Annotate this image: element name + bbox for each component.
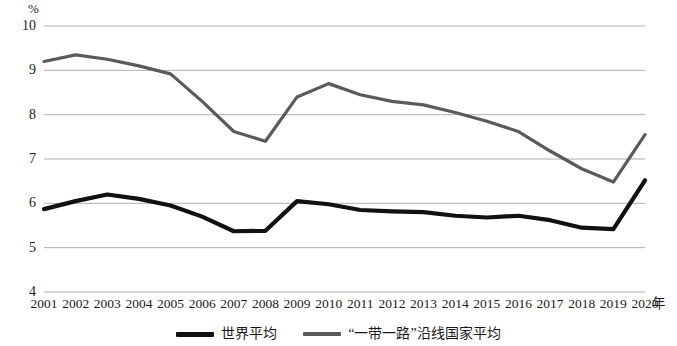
y-tick-label: 9 <box>10 63 36 77</box>
legend-item[interactable]: 世界平均 <box>176 326 277 342</box>
series-group <box>44 55 645 231</box>
y-tick-label: 8 <box>10 108 36 122</box>
y-tick-label: 6 <box>10 196 36 210</box>
plot-area <box>44 26 645 292</box>
x-tick-label: 2020 <box>625 296 665 312</box>
plot-svg <box>44 26 645 292</box>
legend-label: 世界平均 <box>221 326 277 342</box>
line-chart-figure: % 10987654 年 200120022003200420052006200… <box>0 0 677 346</box>
y-tick-label: 7 <box>10 152 36 166</box>
series-line-1 <box>44 180 645 231</box>
x-axis-tick-labels: 年 20012002200320042005200620072008200920… <box>0 296 677 316</box>
legend-item[interactable]: “一带一路”沿线国家平均 <box>303 326 500 342</box>
y-tick-label: 5 <box>10 241 36 255</box>
legend-swatch-line-icon <box>303 332 341 336</box>
legend-swatch-line-icon <box>176 332 214 337</box>
chart-legend: 世界平均“一带一路”沿线国家平均 <box>0 322 677 346</box>
series-line-2 <box>44 55 645 182</box>
y-tick-label: 10 <box>10 19 36 33</box>
y-axis-tick-labels: 10987654 <box>0 0 36 346</box>
legend-label: “一带一路”沿线国家平均 <box>348 326 500 342</box>
